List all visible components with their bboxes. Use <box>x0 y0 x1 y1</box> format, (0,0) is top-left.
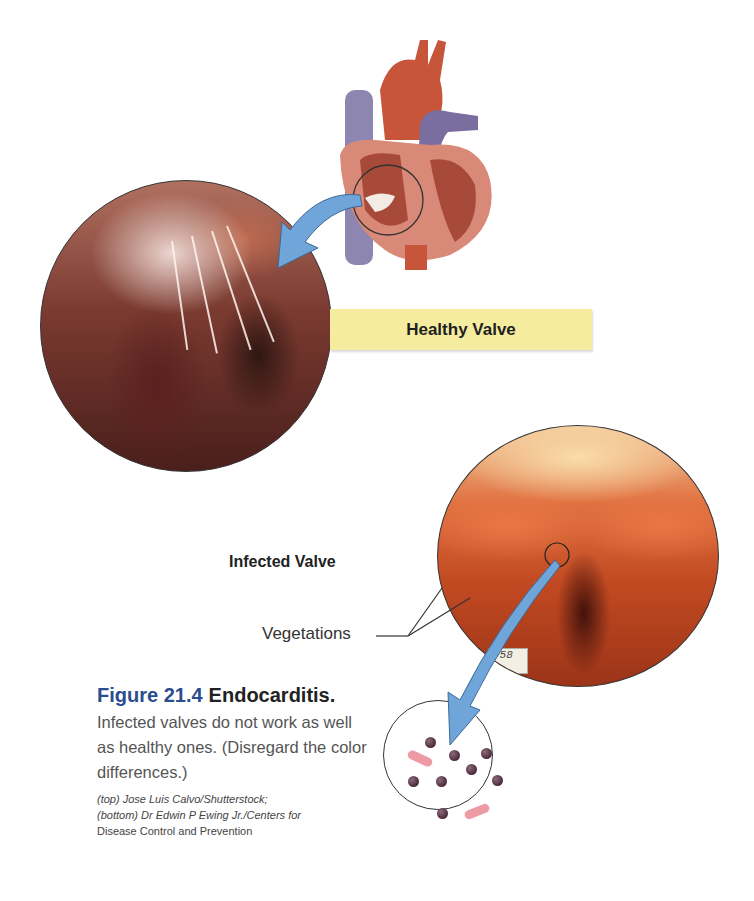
figure-title: Endocarditis. <box>209 684 336 706</box>
credit-line: (bottom) Dr Edwin P Ewing Jr./Centers fo… <box>97 807 367 823</box>
coccus-icon <box>449 750 460 761</box>
infected-valve-label: Infected Valve <box>229 553 336 571</box>
coccus-icon <box>437 808 448 819</box>
figure-description: Infected valves do not work as well as h… <box>97 710 367 785</box>
coccus-icon <box>481 748 492 759</box>
figure-caption: Figure 21.4Endocarditis. Infected valves… <box>97 683 367 839</box>
coccus-icon <box>466 764 477 775</box>
coccus-icon <box>492 775 503 786</box>
rod-bacterium-icon <box>463 802 490 820</box>
bacteria-inset <box>383 700 493 810</box>
specimen-tag: -58 <box>488 648 528 674</box>
infected-valve-photo: -58 <box>437 425 719 687</box>
figure-heading: Figure 21.4Endocarditis. <box>97 683 367 707</box>
figure-number: Figure 21.4 <box>97 684 203 706</box>
coccus-icon <box>408 776 419 787</box>
healthy-valve-photo <box>40 180 332 472</box>
photo-credits: (top) Jose Luis Calvo/Shutterstock; (bot… <box>97 791 367 839</box>
healthy-valve-label: Healthy Valve <box>330 309 592 350</box>
coccus-icon <box>436 776 447 787</box>
credit-line: Disease Control and Prevention <box>97 823 367 839</box>
vegetations-label: Vegetations <box>262 624 351 644</box>
rod-bacterium-icon <box>406 749 433 768</box>
coccus-icon <box>425 737 436 748</box>
heart-illustration <box>330 20 510 270</box>
credit-line: (top) Jose Luis Calvo/Shutterstock; <box>97 791 367 807</box>
